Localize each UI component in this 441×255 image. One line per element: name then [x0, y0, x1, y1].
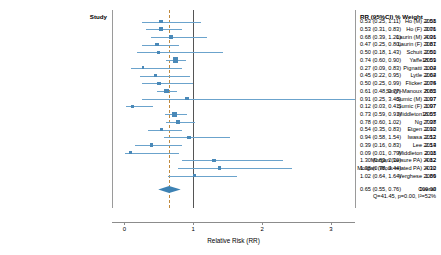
- confidence-interval: [148, 130, 181, 131]
- effect-marker: [154, 74, 157, 77]
- effect-marker: [150, 143, 153, 146]
- stat-weight: 1.04: [416, 65, 436, 71]
- effect-marker: [157, 51, 160, 54]
- stat-weight: 7.37: [416, 119, 436, 125]
- stat-rr: 0.12 (0.03, 0.41): [360, 103, 416, 109]
- stat-rr: 1.30 (0.83, 2.30): [360, 157, 416, 163]
- effect-marker: [131, 105, 134, 108]
- stat-rr: 0.27 (0.09, 0.83): [360, 65, 416, 71]
- forest-plot: Study RR (95%CI) % Weight 0123 Relative …: [0, 0, 441, 255]
- effect-marker: [185, 97, 188, 100]
- pooled-estimate-line: [169, 10, 170, 208]
- stat-rr: 0.47 (0.25, 0.80): [360, 41, 416, 47]
- stat-weight: 4.36: [416, 34, 436, 40]
- stat-rr: 1.02 (0.64, 1.64): [360, 173, 416, 179]
- confidence-interval: [142, 45, 180, 46]
- effect-marker: [164, 89, 168, 93]
- effect-marker: [159, 27, 163, 31]
- overall-stat-row: 0.65 (0.55, 0.76)100.00: [360, 186, 438, 192]
- confidence-interval: [166, 122, 195, 123]
- stat-weight: 2.50: [416, 49, 436, 55]
- stat-rr: 0.50 (0.18, 1.43): [360, 49, 416, 55]
- stat-row: 0.61 (0.48, 0.77)8.82: [360, 88, 438, 94]
- stat-row: 0.09 (0.01, 0.79)2.08: [360, 150, 438, 156]
- stat-weight: 16.55: [416, 111, 436, 117]
- stat-rr: 0.74 (0.60, 0.90): [360, 57, 416, 63]
- stat-row: 0.45 (0.22, 0.95)2.62: [360, 72, 438, 78]
- x-axis: [112, 222, 355, 223]
- stat-weight: 4.82: [416, 157, 436, 163]
- stat-weight: 2.53: [416, 134, 436, 140]
- stat-row: 0.73 (0.59, 0.91)16.55: [360, 111, 438, 117]
- x-axis-label: Relative Risk (RR): [112, 237, 355, 244]
- stat-rr: 0.53 (0.25, 1.11): [360, 18, 416, 24]
- stat-weight: 2.92: [416, 126, 436, 132]
- stat-rr: 0.91 (0.25, 3.40): [360, 96, 416, 102]
- confidence-interval: [125, 153, 179, 154]
- effect-marker: [157, 82, 160, 85]
- stat-row: 1.02 (0.64, 1.64)1.86: [360, 173, 438, 179]
- stat-rr: 0.94 (0.58, 1.54): [360, 134, 416, 140]
- stat-row: 0.53 (0.31, 0.83)3.76: [360, 26, 438, 32]
- confidence-interval: [131, 68, 182, 69]
- stat-rr: 1.38 (0.78, 2.44): [360, 165, 416, 171]
- stat-row: 0.12 (0.03, 0.41)1.97: [360, 103, 438, 109]
- null-reference-line: [193, 10, 194, 208]
- stat-rr: 0.39 (0.16, 0.83): [360, 142, 416, 148]
- effect-marker: [176, 120, 180, 124]
- stat-row: 0.27 (0.09, 0.83)1.04: [360, 65, 438, 71]
- confidence-interval: [164, 137, 230, 138]
- stat-rr: 0.61 (0.48, 0.77): [360, 88, 416, 94]
- stat-weight: 2.08: [416, 150, 436, 156]
- study-column-header: Study: [90, 13, 107, 20]
- effect-marker: [142, 66, 145, 69]
- stat-rr: 0.09 (0.01, 0.79): [360, 150, 416, 156]
- stat-weight: 1.97: [416, 96, 436, 102]
- confidence-interval: [142, 83, 193, 84]
- overall-weight: 100.00: [416, 186, 436, 192]
- stat-row: 0.94 (0.58, 1.54)2.53: [360, 134, 438, 140]
- pooled-diamond: [112, 185, 355, 194]
- heterogeneity-stats: Q=41.45, p=0.00, I²=52%: [373, 193, 436, 199]
- effect-marker: [193, 174, 196, 177]
- x-tick: [193, 222, 194, 225]
- stat-weight: 18.59: [416, 57, 436, 63]
- stat-weight: 4.30: [416, 165, 436, 171]
- stat-weight: 2.74: [416, 80, 436, 86]
- stat-rr: 0.45 (0.22, 0.95): [360, 72, 416, 78]
- confidence-interval: [137, 52, 223, 53]
- stat-row: 0.91 (0.25, 3.40)1.97: [360, 96, 438, 102]
- effect-marker: [169, 35, 173, 39]
- confidence-interval: [151, 37, 207, 38]
- x-tick-label: 0: [114, 226, 134, 232]
- stat-row: 0.68 (0.39, 1.20)4.36: [360, 34, 438, 40]
- overall-rr: 0.65 (0.55, 0.76): [360, 186, 416, 192]
- stat-row: 0.78 (0.60, 1.02)7.37: [360, 119, 438, 125]
- stat-rr: 0.54 (0.35, 0.83): [360, 126, 416, 132]
- stat-rr: 0.68 (0.39, 1.20): [360, 34, 416, 40]
- stat-row: 0.39 (0.16, 0.83)2.54: [360, 142, 438, 148]
- effect-marker: [212, 159, 216, 163]
- confidence-interval: [142, 99, 355, 100]
- stat-rr: 0.53 (0.31, 0.83): [360, 26, 416, 32]
- stat-rr: 0.73 (0.59, 0.91): [360, 111, 416, 117]
- confidence-interval: [168, 176, 237, 177]
- x-tick-label: 1: [183, 226, 203, 232]
- confidence-interval: [182, 160, 283, 161]
- stat-rr: 0.50 (0.25, 0.99): [360, 80, 416, 86]
- x-tick-label: 2: [252, 226, 272, 232]
- stat-weight: 3.87: [416, 41, 436, 47]
- stat-row: 0.54 (0.35, 0.83)2.92: [360, 126, 438, 132]
- effect-marker: [129, 151, 132, 154]
- stat-weight: 8.82: [416, 88, 436, 94]
- x-tick: [124, 222, 125, 225]
- stat-weight: 2.54: [416, 142, 436, 148]
- right-divider: [355, 10, 356, 208]
- effect-marker: [155, 43, 159, 47]
- stat-weight: 1.97: [416, 103, 436, 109]
- confidence-interval: [178, 168, 292, 169]
- effect-marker: [218, 166, 222, 170]
- confidence-interval: [146, 29, 182, 30]
- effect-marker: [187, 136, 190, 139]
- effect-marker: [173, 57, 178, 62]
